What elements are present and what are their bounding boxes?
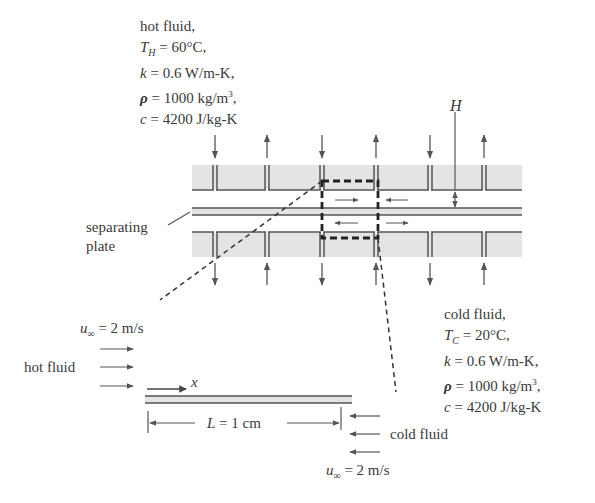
x-axis-label: x [191, 372, 198, 392]
hot-velocity-label: u∞ = 2 m/s [80, 318, 144, 344]
cold-fluid-properties: cold fluid, TC = 20°C, k = 0.6 W/m-K, ρ … [444, 304, 541, 418]
cold-fluid-title: cold fluid, [444, 304, 541, 325]
hot-fluid-properties: hot fluid, TH = 60°C, k = 0.6 W/m-K, ρ =… [140, 16, 237, 130]
cold-fluid-k: k = 0.6 W/m-K, [444, 351, 541, 372]
hot-fluid-arrows [100, 349, 133, 386]
height-label: H [450, 96, 462, 116]
separating-plate-label: separating plate [86, 218, 148, 256]
cold-velocity-label: u∞ = 2 m/s [326, 460, 390, 486]
cold-fluid-label: cold fluid [390, 424, 448, 444]
hot-fluid-rho: ρ = 1000 kg/m3, [140, 84, 237, 109]
hot-fluid-title: hot fluid, [140, 16, 237, 37]
hot-fluid-c: c = 4200 J/kg-K [140, 109, 237, 130]
cold-fluid-rho: ρ = 1000 kg/m3, [444, 372, 541, 397]
top-flow-arrows [215, 135, 484, 158]
cold-fluid-temp: TC = 20°C, [444, 325, 541, 351]
bottom-channel-band [192, 232, 522, 257]
hot-fluid-label: hot fluid [24, 357, 75, 377]
detail-plate [145, 396, 352, 403]
hot-fluid-temp: TH = 60°C, [140, 37, 237, 63]
top-channel-band [192, 165, 522, 190]
bottom-flow-arrows [215, 263, 484, 285]
separating-plate [192, 208, 522, 215]
length-label: L = 1 cm [207, 413, 261, 433]
cold-fluid-arrows [350, 416, 380, 452]
cold-fluid-c: c = 4200 J/kg-K [444, 397, 541, 418]
separating-plate-leader [168, 212, 190, 225]
hot-fluid-k: k = 0.6 W/m-K, [140, 63, 237, 84]
